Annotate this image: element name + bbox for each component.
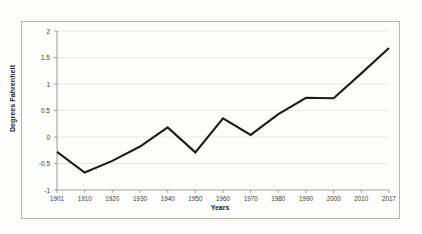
x-tick-label: 1930: [125, 195, 155, 202]
y-tick-label: -0.5: [26, 160, 50, 167]
x-tick-label: 2017: [374, 195, 404, 202]
x-tick-label: 1940: [153, 195, 183, 202]
x-tick-label: 1901: [42, 195, 72, 202]
x-tick-label: 1910: [70, 195, 100, 202]
chart-figure: Degrees Fahrenheit Years 21.510.50-0.5-1…: [0, 0, 422, 234]
x-tick-label: 1970: [236, 195, 266, 202]
gridlines: [57, 31, 389, 190]
x-tick-label: 1980: [263, 195, 293, 202]
y-tick-label: 0.5: [26, 107, 50, 114]
tick-marks: [54, 31, 389, 193]
y-tick-label: 2: [26, 28, 50, 35]
y-tick-label: 0: [26, 134, 50, 141]
y-tick-label: 1: [26, 81, 50, 88]
y-tick-label: 1.5: [26, 54, 50, 61]
y-tick-label: -1: [26, 187, 50, 194]
x-tick-label: 1950: [180, 195, 210, 202]
x-tick-label: 2010: [346, 195, 376, 202]
x-tick-label: 2000: [319, 195, 349, 202]
x-tick-label: 1920: [97, 195, 127, 202]
x-tick-label: 1960: [208, 195, 238, 202]
x-tick-label: 1990: [291, 195, 321, 202]
